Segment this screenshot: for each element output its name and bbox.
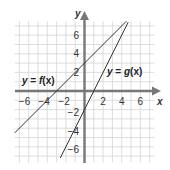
y-axis-arrow-icon bbox=[80, 11, 89, 20]
y-tick-label: −6 bbox=[68, 144, 80, 155]
y-tick-label: −4 bbox=[68, 126, 80, 137]
y-tick-labels: 6 4 2 −2 −4 −6 bbox=[68, 30, 80, 155]
x-axis-arrow-icon bbox=[152, 87, 161, 96]
y-tick-label: −2 bbox=[68, 107, 80, 118]
y-axis bbox=[80, 11, 89, 163]
x-tick-label: 2 bbox=[100, 96, 106, 107]
y-tick-label: 2 bbox=[73, 67, 79, 78]
x-tick-label: 4 bbox=[119, 96, 125, 107]
y-tick-label: 4 bbox=[73, 48, 79, 59]
x-tick-label: −6 bbox=[19, 96, 31, 107]
g-function-label: y = g(x) bbox=[106, 66, 142, 77]
y-tick-label: 6 bbox=[73, 30, 79, 41]
x-tick-label: −4 bbox=[38, 96, 50, 107]
x-axis-label: x bbox=[156, 96, 163, 107]
x-axis bbox=[15, 87, 161, 96]
x-tick-label: −2 bbox=[58, 96, 70, 107]
y-axis-label: y bbox=[74, 8, 81, 19]
x-tick-labels: −6 −4 −2 2 4 6 bbox=[19, 96, 144, 107]
f-function-label: y = f(x) bbox=[21, 75, 55, 86]
x-tick-label: 6 bbox=[138, 96, 144, 107]
coordinate-plane: y x −6 −4 −2 2 4 6 6 4 2 −2 −4 −6 y = f(… bbox=[0, 0, 170, 170]
